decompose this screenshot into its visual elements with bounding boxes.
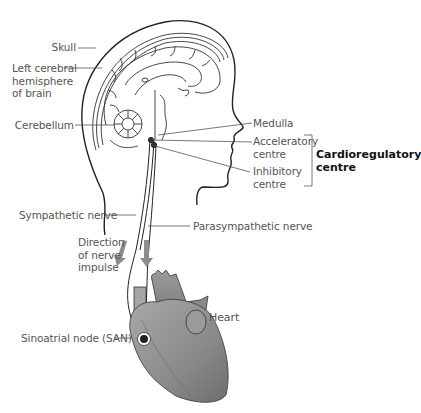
label-line: Left cerebral <box>12 62 77 75</box>
label-medulla: Medulla <box>253 117 293 130</box>
label-parasympathetic-nerve: Parasympathetic nerve <box>193 220 312 233</box>
label-line: centre <box>316 161 421 174</box>
label-line: of brain <box>12 87 77 100</box>
label-line: centre <box>253 178 302 191</box>
label-sinoatrial-node: Sinoatrial node (SAN) <box>21 332 132 345</box>
label-line: Inhibitory <box>253 165 302 178</box>
label-line: Cardioregulatory <box>316 148 421 161</box>
label-line: impulse <box>78 261 125 274</box>
label-acceleratory: Acceleratory centre <box>253 135 318 160</box>
label-cardioregulatory-centre: Cardioregulatory centre <box>316 148 421 174</box>
label-line: hemisphere <box>12 75 77 88</box>
label-line: of nerve <box>78 249 125 262</box>
sinoatrial-node <box>138 333 151 346</box>
label-line: Direction <box>78 236 125 249</box>
label-heart: Heart <box>209 312 239 325</box>
label-line: centre <box>253 148 318 161</box>
label-direction-of-impulse: Direction of nerve impulse <box>78 236 125 274</box>
label-cerebellum: Cerebellum <box>10 119 74 132</box>
label-line: Acceleratory <box>253 135 318 148</box>
brain <box>104 46 220 140</box>
label-skull: Skull <box>40 41 76 54</box>
label-sympathetic-nerve: Sympathetic nerve <box>19 209 117 222</box>
leader-lines <box>64 48 312 338</box>
label-inhibitory: Inhibitory centre <box>253 165 302 190</box>
label-left-hemisphere: Left cerebral hemisphere of brain <box>12 62 77 100</box>
head-outline <box>82 21 243 235</box>
